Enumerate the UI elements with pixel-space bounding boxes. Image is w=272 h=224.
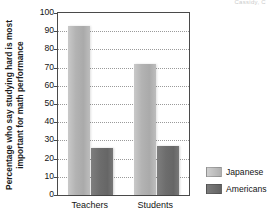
y-axis-tick-mark [54,159,58,160]
bar-students-japanese [134,64,156,195]
y-axis-tick-label: 80 [28,43,54,53]
legend: JapaneseAmericans [206,163,272,197]
y-axis-tick-label: 70 [28,62,54,72]
y-axis-tick-mark [54,31,58,32]
y-axis-title-line-1: Percentage who say studying hard is most [4,1,15,209]
y-axis-tick-label: 50 [28,98,54,108]
y-axis-tick-label: 100 [28,7,54,17]
y-axis-tick-label: 90 [28,25,54,35]
header-text-fragment: Cassidy, C [234,0,266,5]
legend-label: Americans [226,184,267,194]
y-axis-tick-mark [54,49,58,50]
y-axis-tick-label: 30 [28,134,54,144]
y-axis-tick-label: 40 [28,116,54,126]
y-axis-tick-labels: 0102030405060708090100 [28,0,54,224]
y-axis-tick-mark [54,122,58,123]
legend-swatch-icon [206,184,222,194]
legend-label: Japanese [226,167,263,177]
x-axis-tick-label: Students [137,200,173,210]
y-axis-tick-mark [54,140,58,141]
y-axis-tick-mark [54,68,58,69]
bar-teachers-japanese [68,26,90,195]
y-axis-tick-mark [54,13,58,14]
y-axis-title-line-2: important for math performance [15,1,26,209]
legend-item: Americans [206,180,272,197]
legend-item: Japanese [206,163,272,180]
y-axis-tick-label: 60 [28,80,54,90]
y-axis-tick-label: 0 [28,189,54,199]
x-axis-tick-label: Teachers [71,200,108,210]
bar-teachers-americans [91,148,113,195]
y-axis-tick-mark [54,195,58,196]
bars [58,13,189,195]
legend-swatch-icon [206,167,222,177]
y-axis-tick-mark [54,177,58,178]
plot-area [57,12,190,196]
y-axis-tick-mark [54,86,58,87]
bar-students-americans [157,146,179,195]
y-axis-tick-label: 10 [28,171,54,181]
y-axis-title: Percentage who say studying hard is most… [0,0,30,210]
y-axis-tick-mark [54,104,58,105]
y-axis-tick-label: 20 [28,153,54,163]
figure: Cassidy, C Percentage who say studying h… [0,0,272,224]
